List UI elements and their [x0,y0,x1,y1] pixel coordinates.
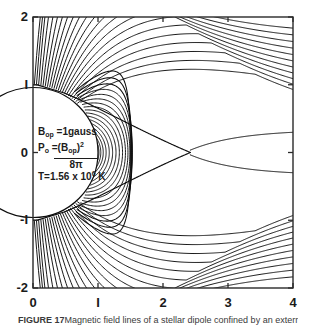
annotation-line-temperature: T=1.56 x 106 K [38,170,150,183]
figure-root: 2 I 0 -I -2 0 I 2 3 4 Bop =1gauss Po =(B… [0,0,310,325]
annotation-p-exponent: 2 [80,141,84,148]
y-tick-label-1: I [10,78,28,91]
annotation-line-p-o: Po =(Bop)2 [38,141,150,155]
plot-annotation-block: Bop =1gauss Po =(Bop)2 8π T=1.56 x 106 K [38,126,150,185]
annotation-line-b-op: Bop =1gauss [38,126,150,139]
annotation-p-symbol: P [38,142,45,153]
x-tick-label-2: 2 [153,296,173,309]
x-tick-label-1: I [88,296,108,309]
figure-caption-body: Magnetic field lines of a stellar dipole… [65,315,298,325]
annotation-p-subscript-2: op [68,147,77,154]
y-tick-label-minus-2: -2 [6,281,28,294]
y-tick-label-2: 2 [10,10,28,23]
x-tick-label-0: 0 [23,296,43,309]
y-tick-label-minus-1: -I [6,213,28,226]
y-tick-label-0: 0 [10,146,28,159]
annotation-b-value: =1gauss [54,126,97,137]
annotation-t-value: T=1.56 x 10 [38,171,92,182]
figure-caption: FIGURE 17Magnetic field lines of a stell… [18,315,298,325]
figure-caption-lead: FIGURE 17 [18,315,65,325]
x-tick-label-4: 4 [283,296,303,309]
x-tick-label-3: 3 [218,296,238,309]
annotation-b-subscript: op [45,131,54,138]
annotation-p-equals: =(B [49,142,68,153]
annotation-t-unit: K [96,171,106,182]
annotation-denominator: 8π [54,159,98,171]
